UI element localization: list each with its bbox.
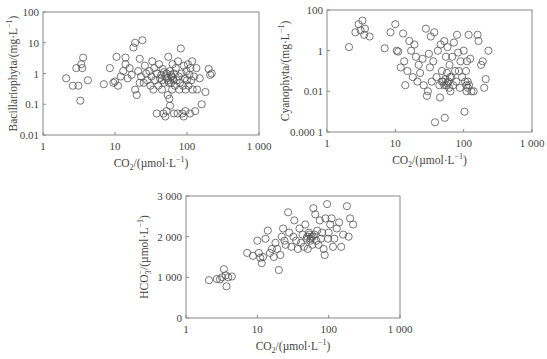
x-tick-label: 1 [183, 323, 189, 335]
x-tick-label: 100 [320, 323, 337, 335]
data-point [444, 44, 451, 51]
data-point [189, 86, 196, 93]
y-tick-label: 0.01 [304, 85, 323, 97]
x-tick-label: 1 000 [520, 137, 545, 149]
data-point [423, 92, 430, 99]
data-point [75, 82, 82, 89]
data-point [264, 227, 271, 234]
data-point [431, 119, 438, 126]
y-tick-label: 0.1 [25, 98, 39, 110]
y-tick-label: 100 [23, 6, 40, 18]
data-point [165, 53, 172, 60]
data-point [293, 237, 300, 244]
data-point [456, 84, 463, 91]
x-tick-label: 1 000 [247, 140, 272, 152]
plot-frame [43, 12, 259, 135]
data-point [465, 31, 472, 38]
data-point [422, 25, 429, 32]
data-point [461, 108, 468, 115]
y-tick-label: 0.01 [20, 129, 39, 141]
data-point [409, 74, 416, 81]
data-point [255, 249, 262, 256]
data-point [381, 45, 388, 52]
data-point [132, 39, 139, 46]
data-point [441, 114, 448, 121]
data-point [400, 30, 407, 37]
y-tick-label: 0.000 1 [290, 126, 323, 138]
x-tick-label: 10 [110, 140, 122, 152]
data-point [122, 61, 129, 68]
data-point [314, 227, 321, 234]
data-point [126, 65, 133, 72]
data-point [485, 47, 492, 54]
y-tick-label: 1 [34, 68, 40, 80]
data-point [266, 249, 273, 256]
x-axis-label: CO2/(µmol·L−1) [114, 155, 189, 172]
y-tick-label: 0 [177, 312, 183, 324]
data-point [446, 61, 453, 68]
data-point [425, 50, 432, 57]
data-point [324, 201, 331, 208]
data-point [299, 231, 306, 238]
data-point [156, 61, 163, 68]
data-point [139, 37, 146, 44]
data-point [270, 253, 277, 260]
data-point [113, 53, 120, 60]
data-point [312, 211, 319, 218]
data-point [286, 229, 293, 236]
data-point [387, 29, 394, 36]
plot-frame [186, 196, 400, 318]
figure-canvas: 1101001 0000.010.1110100CO2/(µmol·L−1)Ba… [0, 0, 547, 359]
data-point [401, 58, 408, 65]
data-point [198, 101, 205, 108]
data-point [406, 37, 413, 44]
x-tick-label: 10 [252, 323, 264, 335]
data-point [281, 237, 288, 244]
cyanophyta-scatter: 1101001 0000.000 10.011100CO2/(µmol·L−1)… [277, 4, 545, 169]
data-point [278, 233, 285, 240]
x-tick-label: 100 [455, 137, 472, 149]
y-tick-label: 2 000 [157, 231, 182, 243]
data-point [202, 88, 209, 95]
data-point [277, 251, 284, 258]
x-axis-label: CO2/(µmol·L−1) [256, 338, 331, 355]
x-axis-label: CO2/(µmol·L−1) [392, 152, 467, 169]
data-point [262, 235, 269, 242]
data-point [417, 69, 424, 76]
y-axis-label: Bacillariophyta/(mg·L−1) [5, 15, 20, 131]
data-point [194, 86, 201, 93]
data-point [462, 67, 469, 74]
data-point [100, 81, 107, 88]
data-point [302, 221, 309, 228]
data-point [402, 82, 409, 89]
data-point [223, 283, 230, 290]
data-point [338, 243, 345, 250]
y-axis-label: Cyanophyta/(mg·L−1) [277, 21, 292, 122]
data-point [166, 102, 173, 109]
data-point [149, 58, 156, 65]
x-tick-label: 10 [390, 137, 402, 149]
data-point [205, 277, 212, 284]
y-tick-label: 10 [28, 37, 40, 49]
data-point [84, 77, 91, 84]
data-point [291, 217, 298, 224]
bacillariophyta-scatter: 1101001 0000.010.1110100CO2/(µmol·L−1)Ba… [5, 6, 272, 172]
data-point [329, 243, 336, 250]
x-tick-label: 100 [179, 140, 196, 152]
hco3-scatter: 1101001 00001 0002 0003 000CO2/(µmol·L−1… [136, 190, 413, 355]
data-point [404, 67, 411, 74]
data-point [428, 78, 435, 85]
data-point [345, 44, 352, 51]
data-point [275, 266, 282, 273]
data-point [411, 41, 418, 48]
y-axis-label: HCO3−/(µmol·L−1) [136, 215, 153, 299]
data-point [80, 54, 87, 61]
data-point [177, 45, 184, 52]
data-point [77, 97, 84, 104]
data-point [450, 39, 457, 46]
y-tick-label: 3 000 [157, 190, 182, 202]
x-tick-label: 1 [324, 137, 330, 149]
data-point [350, 221, 357, 228]
data-point [424, 88, 431, 95]
data-point [254, 237, 261, 244]
